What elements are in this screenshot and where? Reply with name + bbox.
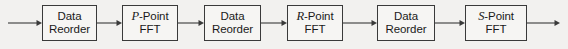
arrowhead-icon [555,20,561,26]
arrow-connector [261,20,287,26]
node-data-reorder-2: DataReorder [204,5,261,41]
node-symbol: P [132,9,140,23]
node-label-secondary: FFT [305,24,326,36]
node-label-primary: Data [58,11,82,23]
arrow-connector [527,20,560,26]
node-s-point-fft: S-PointFFT [465,5,527,41]
node-label-secondary: FFT [140,24,161,36]
block-diagram: DataReorderP-PointFFTDataReorderR-PointF… [0,0,568,49]
node-data-reorder-3: DataReorder [377,5,435,41]
node-label-primary: Data [394,11,418,23]
node-label-secondary: FFT [486,24,507,36]
arrow-connector [343,20,377,26]
node-label-primary-text: -Point [484,10,513,22]
arrow-connector [97,20,122,26]
node-p-point-fft: P-PointFFT [122,5,178,41]
node-label-primary: Data [221,11,245,23]
node-label-primary-text: -Point [304,10,333,22]
arrow-connector [178,20,204,26]
node-label-secondary: Reorder [49,24,90,36]
node-label-primary: R-Point [297,10,334,23]
node-symbol: R [297,9,305,23]
node-label-secondary: Reorder [386,24,427,36]
node-label-primary: S-Point [478,10,514,23]
arrow-connector [8,20,42,26]
node-data-reorder-1: DataReorder [42,5,97,41]
arrow-connector [435,20,465,26]
node-label-primary: P-Point [132,10,169,23]
node-label-primary-text: -Point [139,10,168,22]
node-label-secondary: Reorder [212,24,253,36]
node-r-point-fft: R-PointFFT [287,5,343,41]
